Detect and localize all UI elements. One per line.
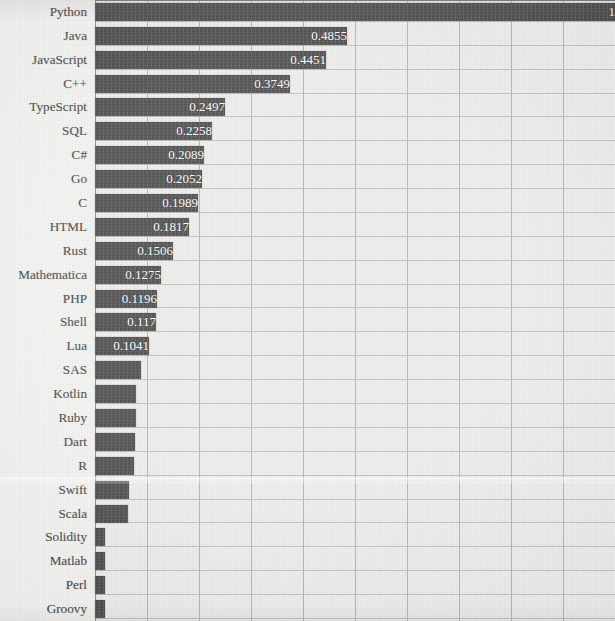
bar-value-label: 0.4855 [95,27,347,45]
bar-value-label: 0.1275 [95,266,161,284]
scanned-chart-page: PythonJavaJavaScriptC++TypeScriptSQLC#Go… [0,0,615,621]
bar-value-label: 0.4451 [95,51,326,69]
bar-value-label: 0.2497 [95,98,225,116]
bar-value-label: 1 [95,3,615,21]
bar [95,409,136,427]
bar-value-label: 0.1506 [95,242,173,260]
bar [95,433,135,451]
bar-value-label: 0.3749 [95,75,290,93]
bar [95,457,134,475]
bar-value-label: 0.117 [95,313,156,331]
bar [95,528,105,546]
bar-value-label: 0.2052 [95,170,202,188]
bar [95,600,105,618]
bar [95,576,105,594]
bar-value-label: 0.1041 [95,337,149,355]
bar [95,481,129,499]
bar-value-label: 0.2258 [95,122,212,140]
bar-series: 10.48550.44510.37490.24970.22580.20890.2… [0,0,615,621]
bar-value-label: 0.1989 [95,194,198,212]
bar [95,552,105,570]
bar-value-label: 0.2089 [95,146,204,164]
bar-value-label: 0.1817 [95,218,189,236]
bar-value-label: 0.1196 [95,290,157,308]
bar [95,505,128,523]
horizontal-bar-chart: PythonJavaJavaScriptC++TypeScriptSQLC#Go… [0,0,615,621]
bar [95,385,136,403]
bar [95,361,141,379]
